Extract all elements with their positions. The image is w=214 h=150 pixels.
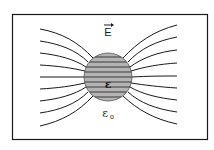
field-line bbox=[40, 92, 88, 113]
medium-permittivity-label: ε o bbox=[102, 107, 114, 120]
field-line bbox=[40, 96, 93, 126]
field-line bbox=[131, 63, 177, 71]
medium-permittivity-symbol: ε bbox=[102, 107, 108, 120]
field-line bbox=[128, 92, 177, 112]
field-line bbox=[123, 25, 177, 58]
dielectric-sphere bbox=[80, 53, 136, 101]
field-line bbox=[131, 83, 177, 88]
sphere-permittivity-label: ε bbox=[105, 78, 112, 91]
field-line bbox=[123, 96, 177, 124]
dielectric-sphere-diagram: E ε ε o bbox=[0, 0, 214, 150]
field-symbol: E bbox=[104, 26, 111, 38]
field-line bbox=[40, 41, 88, 62]
field-line bbox=[130, 87, 177, 100]
field-line bbox=[128, 37, 177, 62]
field-line bbox=[40, 65, 85, 71]
field-label: E bbox=[104, 23, 114, 38]
field-line bbox=[130, 50, 177, 67]
field-line bbox=[40, 83, 85, 89]
medium-permittivity-subscript: o bbox=[110, 113, 114, 120]
field-line bbox=[132, 76, 177, 77]
